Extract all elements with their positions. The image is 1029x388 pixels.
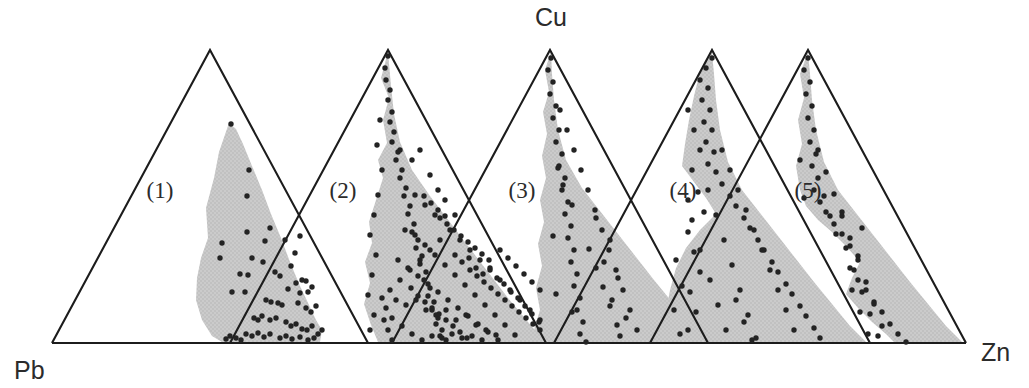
data-point: [299, 326, 304, 331]
data-point: [613, 267, 618, 272]
data-point: [465, 313, 470, 318]
data-point: [255, 317, 260, 322]
data-point: [555, 165, 560, 170]
data-point: [462, 282, 467, 287]
data-point: [745, 312, 750, 317]
data-point: [492, 312, 497, 317]
data-point: [415, 293, 420, 298]
panel-label-2: (2): [330, 178, 357, 203]
data-point: [865, 331, 870, 336]
data-point: [495, 337, 500, 342]
data-point: [803, 91, 808, 96]
data-point: [303, 278, 308, 283]
data-point: [749, 337, 754, 342]
data-point: [311, 335, 316, 340]
data-point: [249, 255, 254, 260]
data-point: [405, 211, 410, 216]
data-point: [855, 277, 860, 282]
data-point: [568, 259, 573, 264]
data-point: [482, 302, 487, 307]
data-point: [389, 109, 394, 114]
data-point: [805, 55, 810, 60]
data-point: [805, 115, 810, 120]
data-point: [723, 327, 728, 332]
data-point: [550, 233, 555, 238]
data-point: [703, 65, 708, 70]
data-point: [497, 247, 502, 252]
data-point: [623, 315, 628, 320]
data-point: [262, 238, 267, 243]
data-point: [855, 257, 860, 262]
data-point: [493, 332, 498, 337]
data-point: [417, 257, 422, 262]
data-point: [689, 217, 694, 222]
data-point: [277, 273, 282, 278]
data-point: [578, 167, 583, 172]
data-point: [775, 287, 780, 292]
data-point: [741, 215, 746, 220]
ternary-diagram-figure: PbCuZn(1)(2)(3)(4)(5): [0, 0, 1029, 388]
data-point: [875, 333, 880, 338]
data-point: [421, 277, 426, 282]
data-point: [242, 289, 247, 294]
data-point: [508, 289, 513, 294]
data-point: [249, 333, 254, 338]
data-point: [707, 277, 712, 282]
data-point: [797, 157, 802, 162]
data-point: [315, 331, 320, 336]
data-point: [419, 337, 424, 342]
data-point: [452, 212, 457, 217]
data-point: [494, 275, 499, 280]
data-point: [443, 317, 448, 322]
data-point: [689, 167, 694, 172]
data-point: [305, 289, 310, 294]
data-point: [783, 281, 788, 286]
data-point: [425, 281, 430, 286]
data-point: [469, 333, 474, 338]
data-point: [687, 289, 692, 294]
data-point: [267, 331, 272, 336]
data-point: [600, 284, 605, 289]
data-point: [562, 175, 567, 180]
data-point: [703, 139, 708, 144]
data-point: [466, 255, 471, 260]
data-point: [562, 211, 567, 216]
data-point: [443, 307, 448, 312]
vertex-label-zn: Zn: [981, 338, 1010, 366]
data-point: [393, 297, 398, 302]
data-point: [429, 333, 434, 338]
data-point: [395, 257, 400, 262]
data-point: [417, 147, 422, 152]
data-point: [729, 262, 734, 267]
data-point: [422, 242, 427, 247]
data-point: [435, 207, 440, 212]
data-point: [545, 67, 550, 72]
data-point: [397, 277, 402, 282]
data-point: [571, 147, 576, 152]
data-point: [472, 292, 477, 297]
data-point: [701, 119, 706, 124]
data-point: [292, 250, 297, 255]
data-point: [389, 315, 394, 320]
data-point: [479, 337, 484, 342]
data-point: [450, 323, 455, 328]
data-point: [705, 187, 710, 192]
data-point: [849, 287, 854, 292]
data-point: [565, 235, 570, 240]
data-point: [733, 203, 738, 208]
data-point: [309, 284, 314, 289]
data-point: [607, 237, 612, 242]
data-point: [259, 313, 264, 318]
data-point: [428, 200, 433, 205]
data-point: [743, 207, 748, 212]
data-point: [615, 275, 620, 280]
data-point: [397, 147, 402, 152]
data-point: [481, 279, 486, 284]
data-point: [309, 323, 314, 328]
data-point: [550, 79, 555, 84]
data-point: [569, 309, 574, 314]
data-point: [574, 307, 579, 312]
data-point: [391, 129, 396, 134]
data-point: [451, 227, 456, 232]
data-point: [617, 333, 622, 338]
